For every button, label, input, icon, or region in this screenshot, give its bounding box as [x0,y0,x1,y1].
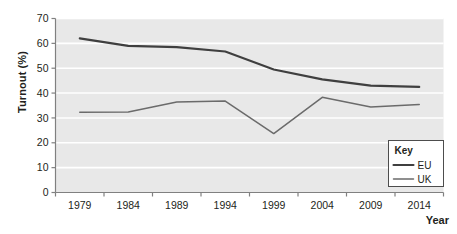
y-axis-tick-label: 30 [37,112,49,124]
x-axis-tick-label: 1999 [262,199,286,211]
y-axis-ticks-group: 010203040506070 [37,12,56,198]
legend-title: Key [395,145,414,156]
legend-label-uk: UK [418,174,432,185]
y-axis-tick-label: 0 [43,186,49,198]
y-axis-tick-label: 20 [37,136,49,148]
legend-label-eu: EU [418,160,432,171]
x-axis-tick-label: 1989 [165,199,189,211]
y-axis-tick-label: 10 [37,161,49,173]
y-axis-tick-label: 70 [37,12,49,24]
turnout-line-chart: Turnout (%) Year 010203040506070 1979198… [0,0,457,234]
x-axis-tick-label: 1979 [68,199,92,211]
chart-legend: KeyEUUK [389,141,444,187]
plot-area: 010203040506070 197919841989199419992004… [0,0,457,234]
y-axis-tick-label: 50 [37,62,49,74]
y-axis-tick-label: 40 [37,87,49,99]
x-axis-tick-label: 1984 [117,199,141,211]
x-axis-tick-label: 2014 [408,199,432,211]
x-axis-tick-label: 2009 [359,199,383,211]
y-axis-tick-label: 60 [37,37,49,49]
x-axis-ticks-group: 19791984198919941999200420092014 [56,193,444,211]
x-axis-tick-label: 2004 [311,199,335,211]
x-axis-tick-label: 1994 [214,199,238,211]
